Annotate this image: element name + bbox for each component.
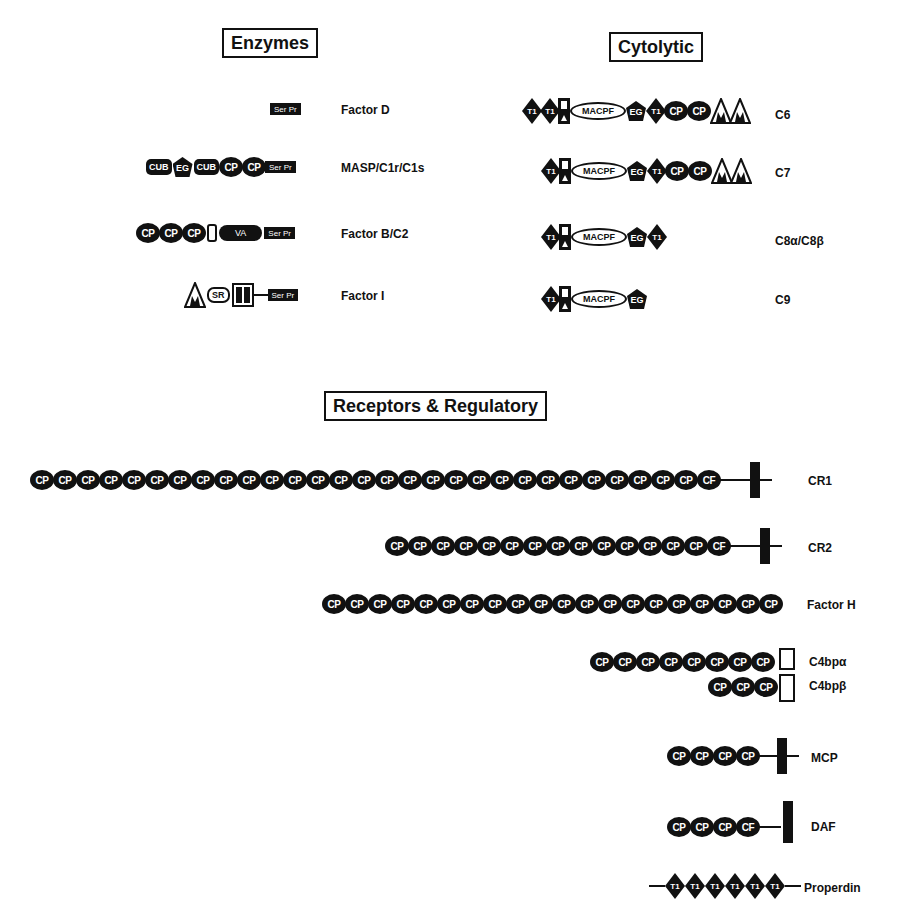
- cp-module: CP: [687, 101, 711, 121]
- cp-module: CP: [136, 223, 160, 243]
- thrombospondin-module: T1: [540, 98, 560, 124]
- section-title-cytolytic: Cytolytic: [609, 32, 703, 62]
- cp-module: CP: [444, 470, 468, 490]
- n-terminal-line: [649, 885, 665, 887]
- ldl-receptor-module: [559, 158, 571, 184]
- cp-module: CP: [759, 594, 783, 614]
- label-c9: C9: [775, 293, 790, 307]
- vwa-module: VA: [219, 225, 262, 241]
- cp-module: CP: [665, 161, 689, 181]
- cp-module: CP: [644, 594, 668, 614]
- cp-module: CP: [690, 817, 714, 837]
- cp-module: CP: [667, 594, 691, 614]
- cp-module: CP: [690, 594, 714, 614]
- cp-module: CP: [667, 817, 691, 837]
- cp-module: CP: [414, 594, 438, 614]
- ldl-receptor-module: [558, 98, 570, 124]
- cp-module: CP: [408, 536, 432, 556]
- cp-module: CP: [713, 594, 737, 614]
- cp-module: CP: [219, 157, 243, 177]
- section-title-receptors: Receptors & Regulatory: [324, 391, 547, 421]
- cp-module: CP: [322, 594, 346, 614]
- transmembrane-segment: [777, 738, 787, 774]
- section-title-enzymes: Enzymes: [222, 28, 318, 58]
- cp-module: CP: [306, 470, 330, 490]
- cp-module: CP: [659, 652, 683, 672]
- cp-module: CP: [754, 677, 778, 697]
- stalk-line: [720, 479, 750, 481]
- cp-module: CP: [636, 652, 660, 672]
- cp-module: CP: [260, 470, 284, 490]
- cp-module: CF: [736, 817, 760, 837]
- factor-d-diagram: Ser Pr: [270, 94, 301, 124]
- cp-module: CP: [705, 652, 729, 672]
- cp-module: CP: [431, 536, 455, 556]
- cp-module: CP: [477, 536, 501, 556]
- cp-module: CP: [628, 470, 652, 490]
- cp-module: CP: [375, 470, 399, 490]
- cp-module: CP: [751, 652, 775, 672]
- egf-module: EG: [173, 157, 193, 177]
- c4bp-alpha-core: [779, 648, 795, 670]
- cytoplasmic-tail: [787, 755, 799, 757]
- thrombospondin-module: T1: [541, 286, 561, 312]
- cp-module: CP: [398, 470, 422, 490]
- cub-module: CUB: [194, 159, 220, 175]
- cp-module: CP: [651, 470, 675, 490]
- thrombospondin-module: T1: [665, 873, 685, 899]
- thrombospondin-module: T1: [745, 873, 765, 899]
- cp-module: CP: [713, 817, 737, 837]
- cub-module: CUB: [146, 159, 172, 175]
- cp-module: CP: [237, 470, 261, 490]
- thrombospondin-module: T1: [647, 224, 667, 250]
- label-c4bp-beta: C4bpβ: [809, 679, 846, 693]
- c-terminal-line: [785, 885, 801, 887]
- cp-module: CP: [569, 536, 593, 556]
- cr2-diagram: CPCPCPCPCPCPCPCPCPCPCPCPCPCPCF: [385, 531, 782, 561]
- egf-module: EG: [627, 227, 647, 247]
- c6-diagram: T1 T1 MACPF EG T1 CP CP: [522, 96, 748, 126]
- daf-diagram: CPCPCPCF: [667, 812, 781, 842]
- cp-module: CP: [467, 470, 491, 490]
- c8-diagram: T1 MACPF EG T1: [541, 222, 665, 252]
- cp-module: CP: [76, 470, 100, 490]
- cp-module: CP: [145, 470, 169, 490]
- cp-module: CP: [30, 470, 54, 490]
- thrombospondin-module: T1: [522, 98, 542, 124]
- cp-module: CP: [598, 594, 622, 614]
- label-cr1: CR1: [808, 474, 832, 488]
- serine-protease-module: Ser Pr: [265, 161, 296, 173]
- cp-module: CP: [590, 652, 614, 672]
- cp-module: CP: [575, 594, 599, 614]
- cp-module: CP: [168, 470, 192, 490]
- cytoplasmic-tail: [760, 479, 772, 481]
- cp-module: CP: [122, 470, 146, 490]
- cp-module: CP: [329, 470, 353, 490]
- cp-module: CP: [242, 157, 266, 177]
- egf-module: EG: [627, 161, 647, 181]
- linker-module: [207, 224, 217, 242]
- transmembrane-segment: [760, 528, 770, 564]
- mcp-diagram: CPCPCPCP: [667, 741, 799, 771]
- cp-module: CP: [99, 470, 123, 490]
- cp-module: CP: [460, 594, 484, 614]
- cp-module: CP: [283, 470, 307, 490]
- label-properdin: Properdin: [804, 881, 861, 895]
- stalk-line: [759, 826, 781, 828]
- label-factor-h: Factor H: [807, 598, 856, 612]
- cp-module: CP: [638, 536, 662, 556]
- fim-module: [184, 282, 206, 308]
- c4bp-beta-core: [779, 674, 795, 702]
- cp-module: CF: [707, 536, 731, 556]
- cp-module: CP: [421, 470, 445, 490]
- label-factor-d: Factor D: [341, 103, 390, 117]
- cp-module: CP: [529, 594, 553, 614]
- cp-module: CP: [664, 101, 688, 121]
- thrombospondin-module: T1: [541, 158, 561, 184]
- ldl-receptor-modules: [232, 283, 254, 307]
- thrombospondin-module: T1: [541, 224, 561, 250]
- linker-line: [254, 294, 268, 296]
- cp-module: CP: [690, 746, 714, 766]
- stalk-line: [730, 545, 760, 547]
- serine-protease-module: Ser Pr: [264, 227, 295, 239]
